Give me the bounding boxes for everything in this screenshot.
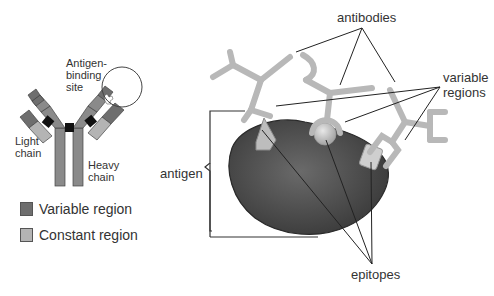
label-variable-regions: variable regions (443, 70, 492, 100)
label-epitopes: epitopes (351, 267, 401, 282)
label-light-chain: Light chain (15, 135, 42, 159)
antibody-1 (213, 52, 290, 120)
legend-label: Variable region (39, 201, 132, 217)
legend-label: Constant region (39, 227, 138, 243)
antibody-2 (303, 55, 372, 133)
antigen-binding-site-circle (102, 67, 142, 107)
heavy-chain-stem-right (73, 128, 83, 186)
antigen-body (229, 120, 388, 234)
label-antigen: antigen (160, 166, 203, 181)
variable-region-swatch (20, 202, 33, 216)
heavy-chain-stem-left (55, 128, 65, 186)
legend-constant-region: Constant region (20, 227, 138, 243)
antibody-antigen-diagram: Antigen- binding site Light chain Heavy … (0, 0, 494, 296)
constant-region-swatch (20, 228, 33, 242)
label-heavy-chain: Heavy chain (88, 159, 122, 183)
legend-variable-region: Variable region (20, 201, 132, 217)
label-antibodies: antibodies (337, 10, 397, 25)
